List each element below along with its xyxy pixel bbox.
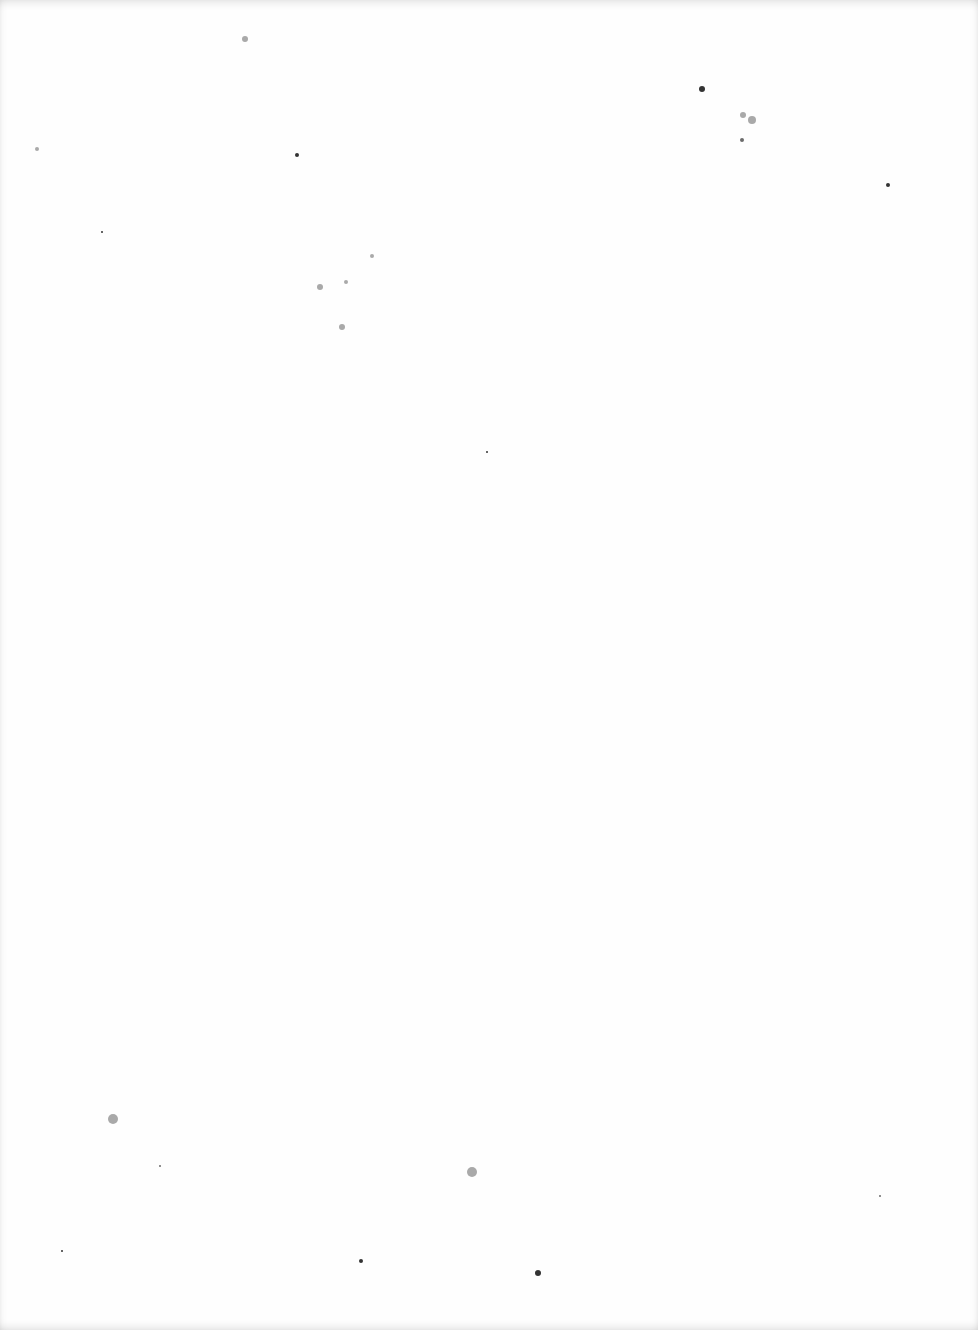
scan-speck xyxy=(108,1114,118,1124)
scan-speck xyxy=(339,324,345,330)
scan-speck xyxy=(699,86,705,92)
scan-speck xyxy=(101,231,103,233)
scan-speck xyxy=(879,1195,881,1197)
scan-speck xyxy=(535,1270,541,1276)
scan-speck xyxy=(317,284,323,290)
scan-speck xyxy=(467,1167,477,1177)
scan-speck xyxy=(61,1250,63,1252)
scan-speck xyxy=(486,451,488,453)
scan-speck xyxy=(35,147,39,151)
scan-speck xyxy=(740,112,746,118)
scan-speck xyxy=(359,1259,363,1263)
scan-speck xyxy=(370,254,374,258)
scan-speck xyxy=(886,183,890,187)
scan-speck xyxy=(295,153,299,157)
scan-speck xyxy=(242,36,248,42)
scan-speck xyxy=(159,1165,161,1167)
scan-speck xyxy=(344,280,348,284)
scan-speck xyxy=(748,116,756,124)
scan-speck xyxy=(740,138,744,142)
blank-page xyxy=(0,0,978,1330)
